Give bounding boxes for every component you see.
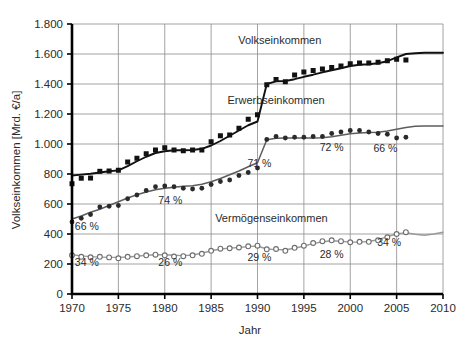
data-point-marker <box>246 170 251 175</box>
data-point-marker <box>237 245 242 250</box>
data-point-marker <box>329 238 334 243</box>
data-point-marker <box>255 243 260 248</box>
data-point-marker <box>320 134 325 139</box>
data-point-marker <box>246 244 251 249</box>
data-point-marker <box>292 73 297 78</box>
data-point-marker <box>125 254 130 259</box>
data-point-marker <box>339 130 344 135</box>
data-point-marker <box>181 148 186 153</box>
data-point-marker <box>404 230 409 235</box>
data-point-marker <box>237 173 242 178</box>
share-percent-annotation: 72 % <box>320 141 344 153</box>
data-point-marker <box>283 136 288 141</box>
y-tick-label: 200 <box>44 258 63 270</box>
data-point-marker <box>135 193 140 198</box>
data-point-marker <box>218 246 223 251</box>
data-point-marker <box>116 168 121 173</box>
x-axis-title: Jahr <box>239 324 262 336</box>
data-point-marker <box>190 148 195 153</box>
data-point-marker <box>283 79 288 84</box>
data-point-marker <box>107 169 112 174</box>
data-point-marker <box>246 117 251 122</box>
share-percent-annotation: 66 % <box>75 220 99 232</box>
share-percent-annotation: 28 % <box>320 248 344 260</box>
y-axis-title: Volkseinkommen [Mrd. €/a] <box>10 91 22 230</box>
data-point-marker <box>357 128 362 133</box>
data-point-marker <box>338 64 343 69</box>
data-point-marker <box>264 137 269 142</box>
y-tick-label: 0 <box>57 288 63 300</box>
x-tick-label: 1990 <box>245 302 271 314</box>
share-percent-annotation: 34 % <box>377 236 401 248</box>
x-axis-tick-labels: 197019751980198519901995200020052010 <box>59 302 456 314</box>
data-point-marker <box>301 70 306 75</box>
data-point-marker <box>172 148 177 153</box>
data-point-marker <box>394 136 399 141</box>
chart-annotations: VolkseinkommenErwerbseinkommenVermögense… <box>75 34 401 268</box>
data-point-marker <box>357 239 362 244</box>
data-point-marker <box>144 151 149 156</box>
chart-container: 197019751980198519901995200020052010 020… <box>0 0 472 350</box>
data-point-marker <box>107 204 112 209</box>
data-point-marker <box>134 156 139 161</box>
data-point-marker <box>162 145 167 150</box>
data-point-marker <box>116 203 121 208</box>
share-percent-annotation: 34 % <box>75 256 99 268</box>
x-tick-label: 1995 <box>291 302 317 314</box>
data-point-marker <box>97 169 102 174</box>
share-percent-annotation: 66 % <box>374 142 398 154</box>
income-line-chart: 197019751980198519901995200020052010 020… <box>0 0 472 350</box>
data-point-marker <box>292 245 297 250</box>
data-point-marker <box>274 77 279 82</box>
x-tick-label: 1975 <box>106 302 132 314</box>
data-point-marker <box>199 148 204 153</box>
data-point-marker <box>311 68 316 73</box>
data-point-marker <box>135 254 140 259</box>
share-percent-annotation: 71 % <box>247 157 271 169</box>
x-tick-label: 1980 <box>152 302 178 314</box>
series-name-annotation: Vermögenseinkommen <box>215 212 328 224</box>
data-point-marker <box>181 186 186 191</box>
data-point-marker <box>218 133 223 138</box>
data-point-marker <box>376 131 381 136</box>
data-point-marker <box>218 179 223 184</box>
x-tick-label: 1985 <box>198 302 224 314</box>
data-point-marker <box>385 58 390 63</box>
data-point-marker <box>301 135 306 140</box>
data-point-marker <box>274 134 279 139</box>
data-point-marker <box>144 188 149 193</box>
data-point-marker <box>366 239 371 244</box>
data-point-marker <box>209 182 214 187</box>
data-point-marker <box>227 178 232 183</box>
data-point-marker <box>125 160 130 165</box>
series-datapoints <box>70 57 409 261</box>
data-point-marker <box>329 65 334 70</box>
data-point-marker <box>227 133 232 138</box>
data-point-marker <box>339 239 344 244</box>
y-tick-label: 1.000 <box>34 138 63 150</box>
y-tick-label: 1.200 <box>34 108 63 120</box>
data-point-marker <box>153 252 158 257</box>
data-point-marker <box>144 253 149 258</box>
share-percent-annotation: 29 % <box>247 251 271 263</box>
y-tick-label: 400 <box>44 228 63 240</box>
data-point-marker <box>125 196 130 201</box>
data-point-marker <box>348 128 353 133</box>
data-point-marker <box>320 67 325 72</box>
data-point-marker <box>311 241 316 246</box>
data-point-marker <box>357 61 362 66</box>
data-point-marker <box>199 251 204 256</box>
y-axis-tick-labels: 02004006008001.0001.2001.4001.6001.800 <box>34 18 63 300</box>
x-tick-label: 2000 <box>337 302 363 314</box>
data-point-marker <box>209 248 214 253</box>
data-point-marker <box>199 186 204 191</box>
series-name-annotation: Volkseinkommen <box>238 34 321 46</box>
data-point-marker <box>403 58 408 63</box>
data-point-marker <box>274 247 279 252</box>
data-point-marker <box>301 243 306 248</box>
data-point-marker <box>153 148 158 153</box>
data-point-marker <box>348 61 353 66</box>
data-point-marker <box>385 132 390 137</box>
data-point-marker <box>190 253 195 258</box>
series-name-annotation: Erwerbseinkommen <box>227 94 324 106</box>
